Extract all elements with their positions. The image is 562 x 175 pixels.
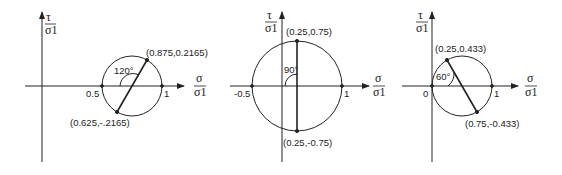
svg-text:σ: σ (196, 71, 203, 85)
panel-3-x-label: σ σ1 (525, 71, 537, 99)
angle-label: 120° (114, 65, 134, 76)
svg-text:τ: τ (418, 8, 423, 22)
svg-text:(0.75,-0.433): (0.75,-0.433) (465, 118, 519, 129)
mohr-circles-diagram: τ σ1 0.5 1 120° (0.875,0.2165) (0.625,-.… (0, 0, 562, 175)
svg-text:(0.25,-0.75): (0.25,-0.75) (283, 137, 332, 148)
angle-arc (285, 74, 297, 86)
svg-text:(0.25,0.433): (0.25,0.433) (435, 43, 486, 54)
svg-text:1: 1 (494, 88, 499, 99)
svg-text:τ: τ (267, 8, 272, 22)
svg-text:0: 0 (423, 88, 428, 99)
svg-text:σ1: σ1 (373, 85, 385, 99)
sigma1-label: σ1 (45, 23, 57, 37)
panel-1-labels: τ σ1 0.5 1 120° (0.875,0.2165) (0.625,-.… (45, 10, 208, 128)
svg-text:(0.25,0.75): (0.25,0.75) (286, 26, 332, 37)
point-top-label: (0.875,0.2165) (146, 47, 208, 58)
svg-text:σ1: σ1 (265, 21, 277, 35)
svg-text:σ1: σ1 (194, 85, 206, 99)
svg-text:σ1: σ1 (416, 21, 428, 35)
tick-1: 1 (164, 88, 169, 99)
svg-text:1: 1 (344, 88, 349, 99)
point-bottom-label: (0.625,-.2165) (70, 117, 130, 128)
svg-text:σ: σ (527, 71, 534, 85)
svg-text:60°: 60° (436, 71, 451, 82)
panel-1-x-label: σ σ1 (194, 71, 206, 99)
svg-text:90°: 90° (284, 64, 299, 75)
panel-2-labels: τ σ1 -0.5 1 90° (0.25,0.75) (0.25,-0.75) (234, 8, 349, 148)
svg-text:σ1: σ1 (525, 85, 537, 99)
svg-text:-0.5: -0.5 (234, 88, 250, 99)
tau-label: τ (46, 10, 51, 24)
panel-2-x-label: σ σ1 (373, 71, 385, 99)
svg-text:σ: σ (375, 71, 382, 85)
tick-0-5: 0.5 (86, 88, 99, 99)
